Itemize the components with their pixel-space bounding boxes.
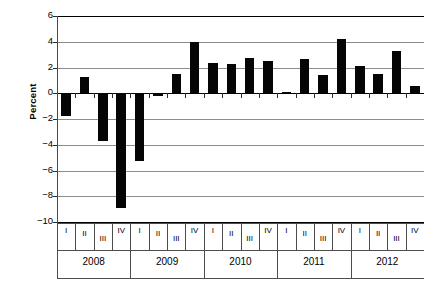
plot-area (57, 16, 424, 222)
quarter-label: IV (406, 226, 424, 236)
quarter-label: IV (112, 226, 130, 236)
bar (190, 42, 200, 94)
chart-figure: Percent 6420−2−4−6−8−10 IIIIIIIVIIIIIIIV… (0, 0, 443, 290)
y-axis-tick-labels: 6420−2−4−6−8−10 (20, 0, 53, 290)
x-tick-mark (241, 93, 242, 98)
x-tick-mark (94, 93, 95, 98)
bar (373, 74, 383, 93)
year-label: 2008 (57, 256, 130, 267)
quarter-label: IV (259, 226, 277, 236)
bar (61, 93, 71, 116)
bar (355, 66, 365, 93)
bar (116, 93, 126, 208)
x-tick-mark (167, 93, 168, 98)
y-tick-label: 6 (20, 9, 53, 20)
y-tick-label: −8 (20, 189, 53, 200)
x-tick-mark (75, 93, 76, 98)
x-tick-mark (351, 93, 352, 98)
y-tick-label: 4 (20, 35, 53, 46)
gridline (57, 196, 424, 197)
gridline (57, 119, 424, 120)
bar (337, 39, 347, 94)
bar (135, 93, 145, 161)
year-axis-strip: 20082009201020112012 (57, 251, 424, 281)
axis-left-rule (57, 223, 58, 279)
year-label: 2010 (204, 256, 277, 267)
x-tick-mark (222, 93, 223, 98)
quarter-label: III (387, 234, 405, 244)
quarter-label: II (149, 229, 167, 239)
y-tick-label: −6 (20, 164, 53, 175)
bar (282, 92, 292, 94)
bar (263, 61, 273, 93)
quarter-label: I (130, 226, 148, 236)
quarter-label: III (94, 234, 112, 244)
y-axis-line (57, 16, 58, 223)
gridline (57, 145, 424, 146)
quarter-label: III (314, 234, 332, 244)
bar (410, 86, 420, 93)
quarter-label: II (222, 229, 240, 239)
x-tick-mark (332, 93, 333, 98)
x-tick-mark (277, 93, 278, 98)
year-label: 2012 (351, 256, 424, 267)
gridline (57, 68, 424, 69)
bar (172, 74, 182, 93)
x-tick-mark (149, 93, 150, 98)
year-label: 2011 (277, 256, 350, 267)
y-tick-label: 0 (20, 86, 53, 97)
quarter-label: I (351, 226, 369, 236)
y-tick-label: 2 (20, 61, 53, 72)
quarter-label: IV (185, 226, 203, 236)
quarter-label: III (167, 234, 185, 244)
x-tick-mark (112, 93, 113, 98)
quarter-label: II (369, 229, 387, 239)
quarter-label: II (75, 229, 93, 239)
y-tick-label: −2 (20, 112, 53, 123)
quarter-label: III (241, 234, 259, 244)
bar (300, 59, 310, 93)
bar (392, 51, 402, 93)
x-tick-mark (406, 93, 407, 98)
gridline (57, 16, 424, 17)
x-tick-mark (204, 93, 205, 98)
bar (208, 63, 218, 93)
bar (98, 93, 108, 141)
bar (227, 64, 237, 94)
y-tick-label: −10 (20, 215, 53, 226)
year-label: 2009 (130, 256, 203, 267)
quarter-label: I (277, 226, 295, 236)
x-tick-mark (369, 93, 370, 98)
bar (80, 77, 90, 94)
x-tick-mark (130, 93, 131, 98)
quarter-label: IV (332, 226, 350, 236)
quarter-label: II (296, 229, 314, 239)
quarter-label: I (57, 226, 75, 236)
x-tick-mark (296, 93, 297, 98)
x-tick-mark (259, 93, 260, 98)
bar (245, 58, 255, 93)
x-tick-mark (185, 93, 186, 98)
bar (153, 93, 163, 96)
x-tick-mark (387, 93, 388, 98)
x-tick-mark (314, 93, 315, 98)
y-tick-label: −4 (20, 138, 53, 149)
bar (318, 75, 328, 94)
year-strip-bottom-rule (57, 278, 424, 279)
gridline (57, 42, 424, 43)
gridline (57, 171, 424, 172)
quarter-label: I (204, 226, 222, 236)
